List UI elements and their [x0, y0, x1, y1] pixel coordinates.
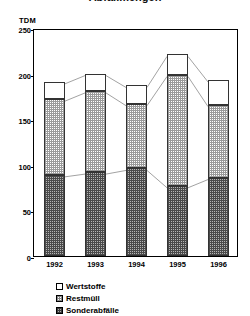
bar-segment-sonderabfaelle[interactable] [85, 172, 106, 256]
plot-area: 05010015020025019921993199419951996 [33, 29, 238, 257]
y-axis-tick-mark [31, 167, 35, 168]
bar-segment-sonderabfaelle[interactable] [167, 186, 188, 256]
bar-1993[interactable] [85, 28, 106, 256]
y-axis-tick-label: 250 [18, 26, 31, 35]
bar-segment-restmuell[interactable] [167, 75, 188, 186]
legend-item-sonderabfaelle: Sonderabfälle [56, 305, 119, 316]
connector-line [106, 76, 126, 88]
connector-line [65, 76, 85, 84]
bar-1995[interactable] [167, 28, 188, 256]
y-axis-tick-mark [31, 30, 35, 31]
chart-page: Abfallmengen TDM 05010015020025019921993… [0, 0, 250, 316]
y-axis-tick-label: 150 [18, 117, 31, 126]
connector-line [188, 56, 208, 82]
connector-line [106, 93, 126, 106]
bar-segment-wertstoffe[interactable] [44, 82, 65, 99]
legend-item-restmuell: Restmüll [56, 293, 119, 304]
connector-line [65, 93, 85, 101]
connector-line [147, 170, 167, 187]
bar-segment-sonderabfaelle[interactable] [44, 175, 65, 256]
legend-label-sonderabfaelle: Sonderabfälle [66, 306, 119, 315]
x-axis-tick-label: 1993 [87, 260, 104, 269]
bar-segment-sonderabfaelle[interactable] [208, 178, 229, 256]
y-axis-tick-label: 100 [18, 162, 31, 171]
x-axis-tick-label: 1996 [210, 260, 227, 269]
y-axis-tick-mark [31, 212, 35, 213]
bar-segment-restmuell[interactable] [208, 105, 229, 178]
legend-item-wertstoffe: Wertstoffe [56, 281, 119, 292]
bar-1994[interactable] [126, 28, 147, 256]
bar-segment-restmuell[interactable] [85, 91, 106, 172]
bar-segment-restmuell[interactable] [44, 99, 65, 175]
y-axis-tick-label: 200 [18, 71, 31, 80]
legend-label-restmuell: Restmüll [66, 294, 100, 303]
light-hatched-square-icon [56, 295, 63, 302]
x-axis-tick-label: 1992 [46, 260, 63, 269]
connector-line [147, 77, 167, 106]
bar-segment-wertstoffe[interactable] [167, 54, 188, 74]
y-axis-unit-label: TDM [19, 16, 36, 25]
y-axis-tick-mark [31, 76, 35, 77]
bar-segment-wertstoffe[interactable] [126, 85, 147, 103]
connector-line [106, 170, 126, 174]
bar-1996[interactable] [208, 28, 229, 256]
connector-line [147, 56, 167, 87]
connector-line [65, 174, 85, 177]
chart-title-clipped: Abfallmengen [0, 0, 250, 11]
white-square-icon [56, 283, 63, 290]
connector-line [188, 180, 208, 188]
bar-segment-wertstoffe[interactable] [208, 80, 229, 105]
dark-hatched-square-icon [56, 307, 63, 314]
y-axis-tick-mark [31, 258, 35, 259]
page-title: Abfallmengen [89, 0, 162, 3]
bar-segment-restmuell[interactable] [126, 104, 147, 169]
chart-legend: Wertstoffe Restmüll Sonderabfälle [56, 281, 119, 316]
x-axis-tick-label: 1995 [169, 260, 186, 269]
x-axis-tick-label: 1994 [128, 260, 145, 269]
bar-segment-sonderabfaelle[interactable] [126, 168, 147, 256]
legend-label-wertstoffe: Wertstoffe [66, 282, 105, 291]
bar-segment-wertstoffe[interactable] [85, 74, 106, 91]
connector-line [188, 77, 208, 107]
y-axis-tick-mark [31, 121, 35, 122]
bar-1992[interactable] [44, 28, 65, 256]
